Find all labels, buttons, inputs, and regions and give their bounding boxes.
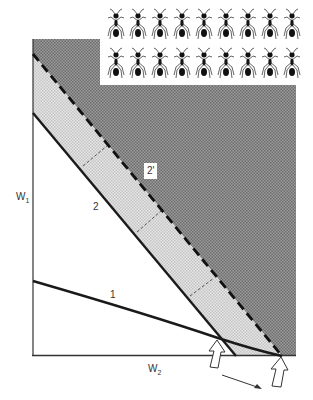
ant-icon [218, 48, 234, 78]
ants-illustration [108, 9, 300, 78]
ant-icon [130, 48, 146, 78]
ant-icon [240, 9, 256, 39]
ant-icon [240, 48, 256, 78]
ant-icon [152, 48, 168, 78]
ant-icon [108, 9, 124, 39]
y-axis-label: W1 [16, 192, 29, 204]
line-2-label: 2 [93, 202, 99, 212]
x-axis-label: W2 [148, 364, 161, 376]
line-2-prime-label: 2' [144, 163, 157, 179]
ant-icon [174, 48, 190, 78]
diagram-figure: W1 W2 2 1 2' [0, 0, 313, 400]
diagram-canvas [0, 0, 313, 400]
ant-icon [262, 48, 278, 78]
ant-icon [196, 48, 212, 78]
ant-icon [196, 9, 212, 39]
dark-region [33, 39, 296, 356]
ant-icon [152, 9, 168, 39]
ant-icon [284, 48, 300, 78]
ant-icon [130, 9, 146, 39]
ant-icon [262, 9, 278, 39]
ant-icon [174, 9, 190, 39]
ant-icon [108, 48, 124, 78]
line-1-label: 1 [110, 290, 116, 300]
up-arrow-icon [209, 340, 225, 368]
shift-arrow-icon [222, 375, 262, 389]
up-arrow-icon [271, 357, 288, 387]
ant-icon [284, 9, 300, 39]
ant-icon [218, 9, 234, 39]
